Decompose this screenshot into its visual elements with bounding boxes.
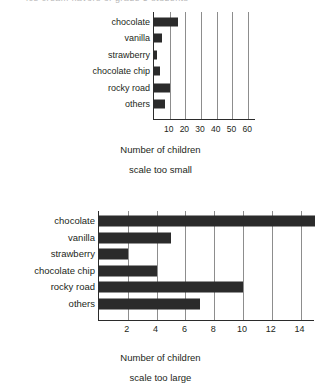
category-label: vanilla <box>68 233 95 243</box>
bar <box>99 216 315 227</box>
bar <box>154 100 165 109</box>
x-tick-label: 20 <box>180 125 189 134</box>
cut-off-heading-text: ice cream flavors of grade 5 students <box>26 0 188 3</box>
x-tick-label: 60 <box>242 125 251 134</box>
gridline <box>214 211 215 320</box>
bar <box>99 232 171 243</box>
x-tick-label: 8 <box>211 325 216 334</box>
bar <box>154 83 170 92</box>
x-tick-label: 40 <box>211 125 220 134</box>
gridline <box>170 12 171 119</box>
plot-area-top <box>153 12 255 120</box>
x-tick-label: 14 <box>295 325 305 334</box>
x-axis-title-bottom: Number of children <box>0 353 321 363</box>
category-label: chocolate chip <box>92 67 150 76</box>
x-tick-label: 10 <box>164 125 173 134</box>
x-tick-label: 50 <box>227 125 236 134</box>
chart-scale-too-large: chocolatevanillastrawberrychocolate chip… <box>0 205 321 327</box>
x-tick-label: 2 <box>124 325 129 334</box>
category-label: strawberry <box>108 50 150 59</box>
category-label: rocky road <box>51 283 95 293</box>
x-tick-label: 30 <box>195 125 204 134</box>
bar <box>154 34 162 43</box>
gridline <box>301 211 302 320</box>
category-label: others <box>69 299 95 309</box>
chart-scale-too-small: chocolatevanillastrawberrychocolate chip… <box>0 8 321 133</box>
x-tick-label: 10 <box>237 325 247 334</box>
x-tick-label: 4 <box>153 325 158 334</box>
x-axis-title-top: Number of children <box>0 145 321 155</box>
figure-scale-too-large: chocolatevanillastrawberrychocolate chip… <box>0 205 321 327</box>
plot-area-bottom <box>98 211 314 321</box>
x-axis-ticks-bottom: 2468101214 <box>0 325 321 339</box>
bar <box>99 265 157 276</box>
x-tick-label: 12 <box>266 325 276 334</box>
category-label: chocolate <box>111 18 150 27</box>
category-label: rocky road <box>108 83 150 92</box>
gridline <box>272 211 273 320</box>
gridline <box>243 211 244 320</box>
bar <box>154 18 178 27</box>
cut-off-heading-artifact: ice cream flavors of grade 5 students <box>0 0 321 6</box>
bar <box>154 67 160 76</box>
figure-caption-top: scale too small <box>0 165 321 175</box>
figure-caption-bottom: scale too large <box>0 373 321 383</box>
bar <box>154 50 157 59</box>
category-label: chocolate <box>54 216 95 226</box>
gridline <box>185 12 186 119</box>
category-label: others <box>125 100 150 109</box>
gridline <box>232 12 233 119</box>
gridline <box>217 12 218 119</box>
gridline <box>248 12 249 119</box>
bar <box>99 249 128 260</box>
category-label: strawberry <box>51 249 95 259</box>
bar <box>99 282 243 293</box>
x-axis-ticks-top: 102030405060 <box>0 125 321 139</box>
x-tick-label: 6 <box>182 325 187 334</box>
bar <box>99 299 200 310</box>
gridline <box>201 12 202 119</box>
category-label: vanilla <box>124 34 150 43</box>
figure-scale-too-small: chocolatevanillastrawberrychocolate chip… <box>0 8 321 133</box>
category-label: chocolate chip <box>34 266 95 276</box>
